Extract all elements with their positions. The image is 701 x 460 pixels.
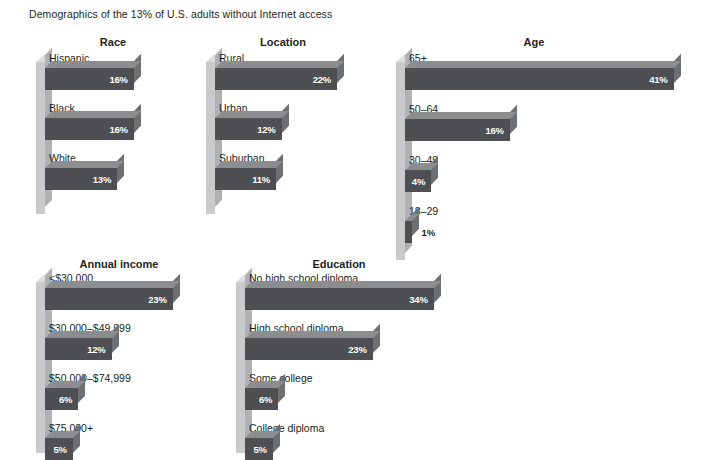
chart-title-annual-income: Annual income: [29, 258, 209, 270]
bar-side-face: [431, 156, 438, 185]
bar-value-label: 4%: [412, 176, 425, 187]
bar[interactable]: 16%: [405, 119, 510, 141]
chart-panel-education: Education No high school diploma34%High …: [229, 258, 449, 453]
bar-top-face: [45, 331, 119, 338]
bar-side-face: [373, 324, 380, 353]
chart-title-age: Age: [444, 36, 624, 48]
bar-side-face: [78, 374, 85, 403]
bar[interactable]: 4%: [405, 170, 431, 192]
chart-axis-annual-income: [36, 282, 45, 453]
bar[interactable]: 23%: [245, 338, 373, 360]
bar-top-face: [45, 281, 180, 288]
bar-value-label: 6%: [59, 394, 72, 405]
bar-value-label: 34%: [409, 294, 427, 305]
chart-title-education: Education: [229, 258, 449, 270]
bar-front-face: [405, 68, 674, 90]
bar-top-face: [245, 281, 441, 288]
bar[interactable]: 6%: [245, 388, 278, 410]
bar-value-label: 11%: [252, 174, 270, 185]
chart-title-location: Location: [199, 36, 367, 48]
bar-top-face: [405, 61, 681, 68]
bar-top-face: [215, 61, 344, 68]
bar-top-face: [245, 331, 380, 338]
bar-front-face: [245, 288, 434, 310]
bar[interactable]: 13%: [45, 168, 117, 190]
bar-group-location: Rural22%Urban12%Suburban11%: [215, 58, 367, 218]
bar-value-label: 16%: [485, 125, 503, 136]
bar[interactable]: 41%: [405, 68, 674, 90]
bar-side-face: [510, 105, 517, 134]
bar-top-face: [215, 111, 289, 118]
chart-axis-race: [36, 62, 45, 214]
bar-group-annual-income: <$30,00023%$30,000–$49,99912%$50,000–$74…: [45, 278, 209, 458]
bar-side-face: [674, 54, 681, 83]
bar-top-face: [45, 61, 141, 68]
bar-side-face: [134, 54, 141, 83]
bar[interactable]: 12%: [215, 118, 282, 140]
chart-panel-race: Race Hispanic16%Black16%White13%: [29, 36, 197, 216]
bar-group-age: 65+41%50–6416%30–494%18–291%: [405, 58, 689, 264]
bar[interactable]: 11%: [215, 168, 276, 190]
bar-value-label: 16%: [109, 74, 127, 85]
bar-side-face: [282, 104, 289, 133]
bar[interactable]: 6%: [45, 388, 78, 410]
bar-side-face: [134, 104, 141, 133]
bar[interactable]: 23%: [45, 288, 173, 310]
bar[interactable]: 12%: [45, 338, 112, 360]
bar[interactable]: 1%: [405, 221, 412, 243]
bar-value-label: 16%: [109, 124, 127, 135]
bar-value-label: 5%: [253, 444, 266, 455]
chart-axis-age: [396, 62, 405, 260]
bar[interactable]: 16%: [45, 68, 134, 90]
chart-panel-annual-income: Annual income <$30,00023%$30,000–$49,999…: [29, 258, 209, 453]
bar-top-face: [215, 161, 283, 168]
bar-side-face: [173, 274, 180, 303]
page-title: Demographics of the 13% of U.S. adults w…: [29, 8, 332, 20]
bar-side-face: [337, 54, 344, 83]
bar-value-label: 6%: [259, 394, 272, 405]
bar-side-face: [117, 154, 124, 183]
bar-group-education: No high school diploma34%High school dip…: [245, 278, 449, 458]
bar-value-label: 23%: [348, 344, 366, 355]
bar[interactable]: 16%: [45, 118, 134, 140]
bar-top-face: [405, 112, 517, 119]
bar-top-face: [45, 111, 141, 118]
bar-value-label: 12%: [257, 124, 275, 135]
bar-value-label: 5%: [53, 444, 66, 455]
bar[interactable]: 22%: [215, 68, 337, 90]
bar-value-label: 41%: [649, 74, 667, 85]
chart-axis-location: [206, 62, 215, 214]
bar-value-label: 12%: [87, 344, 105, 355]
bar-value-label: 23%: [148, 294, 166, 305]
chart-title-race: Race: [29, 36, 197, 48]
chart-panel-location: Location Rural22%Urban12%Suburban11%: [199, 36, 367, 216]
bar-side-face: [278, 374, 285, 403]
bar-front-face: [405, 221, 412, 243]
bar[interactable]: 34%: [245, 288, 434, 310]
bar[interactable]: 5%: [45, 438, 73, 460]
bar-side-face: [434, 274, 441, 303]
bar-value-label: 22%: [313, 74, 331, 85]
chart-axis-education: [236, 282, 245, 453]
bar[interactable]: 5%: [245, 438, 273, 460]
bar-value-label: 13%: [93, 174, 111, 185]
bar-top-face: [45, 161, 124, 168]
chart-panel-age: Age 65+41%50–6416%30–494%18–291%: [389, 36, 689, 256]
bar-side-face: [276, 154, 283, 183]
bar-group-race: Hispanic16%Black16%White13%: [45, 58, 197, 218]
bar-value-label: 1%: [422, 227, 435, 238]
